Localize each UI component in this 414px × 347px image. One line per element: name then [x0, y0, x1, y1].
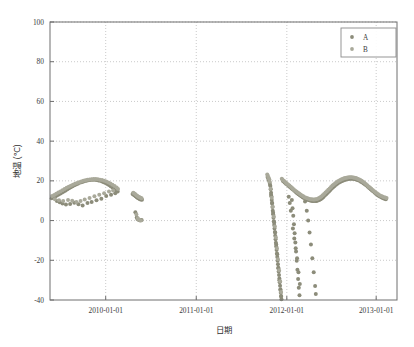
- data-point: [296, 270, 300, 274]
- data-point: [309, 242, 313, 246]
- data-point: [275, 252, 279, 256]
- data-point: [312, 270, 316, 274]
- data-point: [116, 187, 120, 191]
- data-point: [61, 199, 65, 203]
- y-tick-label: -20: [34, 256, 44, 265]
- data-point: [268, 180, 272, 184]
- data-point: [81, 203, 85, 207]
- series-B: [50, 173, 389, 295]
- data-point: [305, 209, 309, 213]
- data-point: [74, 200, 78, 204]
- scatter-plot: -40-200204060801002010-01-012011-01-0120…: [0, 0, 414, 347]
- chart-legend[interactable]: AB: [341, 28, 396, 57]
- y-tick-label: 100: [33, 18, 44, 27]
- data-point: [275, 246, 279, 250]
- data-point: [292, 236, 296, 240]
- data-point: [99, 197, 103, 201]
- data-point: [270, 196, 274, 200]
- data-point: [273, 225, 277, 229]
- data-point: [314, 292, 318, 296]
- data-point: [53, 197, 57, 201]
- y-tick-label: 0: [40, 216, 44, 225]
- data-point: [308, 230, 312, 234]
- data-point: [107, 190, 111, 194]
- data-point: [291, 227, 295, 231]
- data-point: [276, 262, 280, 266]
- y-tick-label: 40: [37, 137, 45, 146]
- data-point: [269, 187, 273, 191]
- legend-marker-icon: [350, 47, 354, 51]
- data-point: [292, 222, 296, 226]
- axes-layer: [50, 22, 397, 300]
- data-point: [313, 284, 317, 288]
- x-axis-title: 日期: [216, 325, 232, 335]
- data-point: [70, 199, 74, 203]
- data-point: [274, 235, 278, 239]
- data-point: [88, 196, 92, 200]
- data-point: [293, 231, 297, 235]
- x-tick-label: 2010-01-01: [88, 306, 123, 315]
- y-tick-label: 60: [37, 97, 45, 106]
- data-point: [270, 201, 274, 205]
- data-point: [272, 215, 276, 219]
- data-point: [92, 194, 96, 198]
- data-point: [64, 202, 68, 206]
- data-point: [134, 213, 138, 217]
- data-point: [288, 201, 292, 205]
- data-point: [310, 256, 314, 260]
- data-point: [79, 199, 83, 203]
- data-point: [297, 293, 301, 297]
- legend-label: B: [363, 46, 368, 54]
- data-point: [97, 193, 101, 197]
- data-point: [294, 246, 298, 250]
- x-tick-label: 2013-01-01: [359, 306, 394, 315]
- data-point: [276, 257, 280, 261]
- data-point: [278, 284, 282, 288]
- legend-marker-icon: [350, 35, 354, 39]
- legend-label: A: [363, 34, 369, 42]
- data-point: [83, 198, 87, 202]
- chart-figure: -40-200204060801002010-01-012011-01-0120…: [0, 0, 414, 347]
- data-point: [277, 273, 281, 277]
- plot-frame: [50, 22, 397, 300]
- data-point: [287, 195, 291, 199]
- data-point: [289, 209, 293, 213]
- y-tick-label: 20: [37, 176, 45, 185]
- data-point: [111, 188, 115, 192]
- data-point: [271, 211, 275, 215]
- data-point: [293, 240, 297, 244]
- data-point: [295, 256, 299, 260]
- gridlines: [50, 22, 397, 300]
- data-point: [279, 290, 283, 294]
- data-point: [279, 294, 283, 298]
- axis-ticks-layer: -40-200204060801002010-01-012011-01-0120…: [33, 18, 394, 315]
- data-point: [278, 279, 282, 283]
- data-point: [102, 191, 106, 195]
- data-point: [271, 205, 275, 209]
- data-points-layer: [50, 173, 389, 302]
- x-tick-label: 2012-01-01: [270, 306, 305, 315]
- data-point: [298, 282, 302, 286]
- y-tick-label: 80: [37, 57, 45, 66]
- y-tick-label: -40: [34, 296, 44, 305]
- data-point: [139, 219, 143, 223]
- data-point: [57, 198, 61, 202]
- legend-box: [341, 28, 396, 57]
- data-point: [296, 277, 300, 281]
- data-point: [297, 286, 301, 290]
- data-point: [66, 198, 70, 202]
- data-point: [306, 219, 310, 223]
- data-point: [95, 198, 99, 202]
- data-point: [272, 221, 276, 225]
- data-point: [277, 268, 281, 272]
- data-point: [291, 214, 295, 218]
- data-point: [90, 200, 94, 204]
- y-axis-title: 地温 (℃): [12, 144, 22, 178]
- data-point: [274, 242, 278, 246]
- data-point: [273, 230, 277, 234]
- data-point: [385, 196, 389, 200]
- data-point: [140, 196, 144, 200]
- x-tick-label: 2011-01-01: [179, 306, 214, 315]
- data-point: [85, 201, 89, 205]
